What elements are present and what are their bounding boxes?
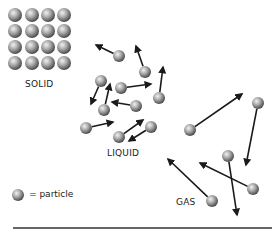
solid-particle xyxy=(57,56,71,70)
gas-particle xyxy=(206,195,218,207)
solid-particle xyxy=(25,8,39,22)
solid-particle xyxy=(41,56,55,70)
velocity-arrow-icon xyxy=(96,45,114,53)
solid-particle xyxy=(41,24,55,38)
velocity-arrow-icon xyxy=(136,46,143,66)
velocity-arrow-icon xyxy=(129,130,146,141)
liquid-label: LIQUID xyxy=(107,148,139,158)
velocity-arrow-icon xyxy=(246,109,257,165)
solid-particle xyxy=(8,24,22,38)
velocity-arrow-icon xyxy=(160,67,163,92)
liquid-particle xyxy=(95,75,107,87)
gas-particle xyxy=(222,150,234,162)
velocity-arrow-icon xyxy=(105,84,110,104)
liquid-particle xyxy=(115,82,127,94)
liquid-particle xyxy=(145,121,157,133)
gas-label: GAS xyxy=(176,197,195,207)
velocity-arrow-icon xyxy=(112,102,130,105)
velocity-arrow-icon xyxy=(92,122,113,127)
velocity-arrow-icon xyxy=(124,120,143,134)
legend-particle xyxy=(12,189,24,201)
liquid-particle xyxy=(80,122,92,134)
solid-particle xyxy=(8,8,22,22)
liquid-particle xyxy=(130,100,142,112)
velocity-arrow-icon xyxy=(229,162,237,215)
legend-particle-icon xyxy=(12,189,24,201)
solid-particle xyxy=(8,56,22,70)
velocity-arrow-icon xyxy=(127,84,151,87)
solid-particle xyxy=(8,40,22,54)
solid-particle xyxy=(41,40,55,54)
gas-particle xyxy=(184,124,196,136)
liquid-particles xyxy=(80,45,165,143)
liquid-particle xyxy=(113,131,125,143)
solid-particle xyxy=(25,56,39,70)
solid-particles xyxy=(8,8,71,70)
solid-particle xyxy=(57,24,71,38)
velocity-arrow-icon xyxy=(195,94,242,127)
gas-particle xyxy=(247,183,259,195)
solid-particle xyxy=(57,8,71,22)
solid-particle xyxy=(41,8,55,22)
liquid-particle xyxy=(139,66,151,78)
legend-label: = particle xyxy=(29,189,73,199)
liquid-particle xyxy=(153,92,165,104)
liquid-particle xyxy=(98,104,110,116)
solid-label: SOLID xyxy=(25,79,53,89)
liquid-particle xyxy=(113,50,125,62)
solid-particle xyxy=(25,40,39,54)
solid-particle xyxy=(25,24,39,38)
velocity-arrow-icon xyxy=(91,87,99,104)
solid-particle xyxy=(57,40,71,54)
velocity-arrow-icon xyxy=(200,163,248,186)
gas-particle xyxy=(252,97,264,109)
